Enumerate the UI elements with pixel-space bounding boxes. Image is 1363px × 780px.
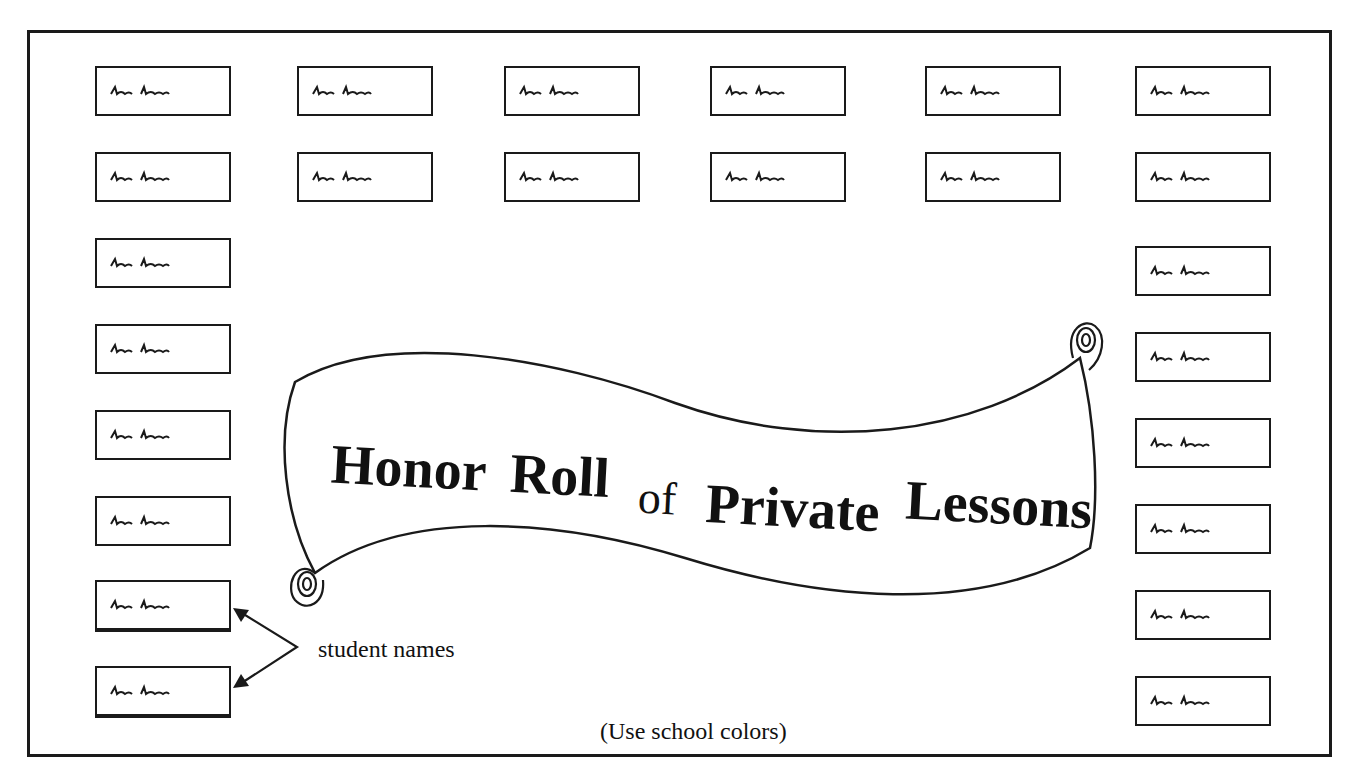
handwritten-name-scribble [1149,170,1249,184]
student-name-box [95,666,231,716]
handwritten-name-scribble [109,170,209,184]
student-name-box [1135,676,1271,726]
student-name-box [1135,246,1271,296]
handwritten-name-scribble [311,170,411,184]
student-name-box [1135,504,1271,554]
handwritten-name-scribble [1149,264,1249,278]
handwritten-name-scribble [109,84,209,98]
student-name-box [1135,590,1271,640]
student-name-box [95,410,231,460]
student-name-box [95,152,231,202]
student-name-box [925,152,1061,202]
handwritten-name-scribble [1149,694,1249,708]
handwritten-name-scribble [724,170,824,184]
student-name-box [1135,418,1271,468]
student-name-box [1135,66,1271,116]
scroll-banner: Honor Roll of Private Lessons [255,318,1115,618]
handwritten-name-scribble [109,514,209,528]
handwritten-name-scribble [1149,608,1249,622]
callout-arrows [225,600,315,700]
handwritten-name-scribble [1149,350,1249,364]
handwritten-name-scribble [109,428,209,442]
handwritten-name-scribble [1149,436,1249,450]
handwritten-name-scribble [311,84,411,98]
student-name-box [297,152,433,202]
handwritten-name-scribble [518,170,618,184]
instruction-note: (Use school colors) [600,718,787,745]
handwritten-name-scribble [1149,84,1249,98]
student-name-box [710,66,846,116]
handwritten-name-scribble [724,84,824,98]
student-name-box [95,66,231,116]
student-name-box [95,324,231,374]
handwritten-name-scribble [109,256,209,270]
handwritten-name-scribble [518,84,618,98]
handwritten-name-scribble [109,684,209,698]
callout-label: student names [318,636,455,663]
student-name-box [504,152,640,202]
handwritten-name-scribble [939,170,1039,184]
student-name-box [504,66,640,116]
handwritten-name-scribble [109,342,209,356]
student-name-box [925,66,1061,116]
student-name-box [1135,332,1271,382]
student-name-box [297,66,433,116]
handwritten-name-scribble [109,598,209,612]
student-name-box [95,580,231,630]
handwritten-name-scribble [939,84,1039,98]
student-name-box [95,238,231,288]
student-name-box [1135,152,1271,202]
student-name-box [95,496,231,546]
student-name-box [710,152,846,202]
handwritten-name-scribble [1149,522,1249,536]
